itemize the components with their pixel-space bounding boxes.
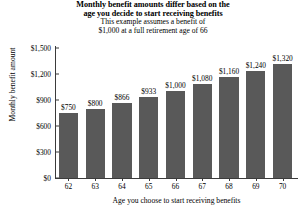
chart-container: Monthly benefit amounts differ based on … bbox=[0, 0, 306, 213]
y-axis-tick-mark bbox=[55, 48, 59, 49]
x-axis-tick-mark bbox=[256, 178, 257, 181]
y-axis-tick-label: $1,500 bbox=[31, 44, 55, 53]
x-axis-tick-label: 63 bbox=[91, 182, 98, 191]
bar bbox=[273, 64, 292, 178]
x-axis-tick-mark bbox=[122, 178, 123, 181]
bar bbox=[139, 97, 158, 178]
bar-value-label: $866 bbox=[115, 93, 130, 102]
x-axis-tick-mark bbox=[176, 178, 177, 181]
bar-value-label: $1,080 bbox=[192, 74, 212, 83]
bar-value-label: $1,160 bbox=[219, 67, 239, 76]
y-axis-label: Monthly benefit amount bbox=[8, 25, 17, 145]
x-axis-tick-label: 68 bbox=[225, 182, 232, 191]
x-axis-tick-label: 65 bbox=[145, 182, 152, 191]
y-axis-tick-label: $600 bbox=[36, 122, 55, 131]
x-axis-tick-label: 70 bbox=[279, 182, 286, 191]
y-axis-tick-label: $900 bbox=[36, 96, 55, 105]
x-axis-tick-label: 67 bbox=[199, 182, 206, 191]
bar-value-label: $800 bbox=[88, 99, 103, 108]
x-axis-tick-label: 69 bbox=[252, 182, 259, 191]
bar-value-label: $933 bbox=[141, 87, 156, 96]
x-axis-label: Age you choose to start receiving benefi… bbox=[55, 196, 298, 205]
bar-value-label: $1,000 bbox=[165, 81, 185, 90]
x-axis-tick-mark bbox=[202, 178, 203, 181]
bar bbox=[246, 71, 265, 178]
x-axis-tick-mark bbox=[149, 178, 150, 181]
bar bbox=[193, 84, 212, 178]
chart-title-block: Monthly benefit amounts differ based on … bbox=[0, 1, 306, 35]
x-axis-tick-mark bbox=[229, 178, 230, 181]
x-axis-tick-label: 66 bbox=[172, 182, 179, 191]
y-axis-tick-mark bbox=[55, 100, 59, 101]
y-axis-tick-label: $300 bbox=[36, 148, 55, 157]
bar bbox=[166, 91, 185, 178]
x-axis-tick-mark bbox=[95, 178, 96, 181]
y-axis-tick-mark bbox=[55, 74, 59, 75]
bar bbox=[112, 103, 131, 178]
bar bbox=[86, 109, 105, 178]
x-axis-tick-label: 64 bbox=[118, 182, 125, 191]
bar-value-label: $1,320 bbox=[272, 54, 292, 63]
x-axis-line bbox=[55, 178, 298, 179]
bar-value-label: $750 bbox=[61, 103, 76, 112]
bar bbox=[219, 77, 238, 178]
y-axis-tick-label: $0 bbox=[44, 174, 55, 183]
x-axis-tick-mark bbox=[283, 178, 284, 181]
plot-area: $0$300$600$900$1,200$1,500$750$800$866$9… bbox=[55, 48, 296, 178]
x-axis-tick-label: 62 bbox=[65, 182, 72, 191]
chart-subtitle-line-2: $1,000 at a full retirement age of 66 bbox=[0, 27, 306, 36]
y-axis-tick-label: $1,200 bbox=[31, 70, 55, 79]
bar bbox=[59, 113, 78, 178]
bar-value-label: $1,240 bbox=[246, 61, 266, 70]
x-axis-tick-mark bbox=[68, 178, 69, 181]
